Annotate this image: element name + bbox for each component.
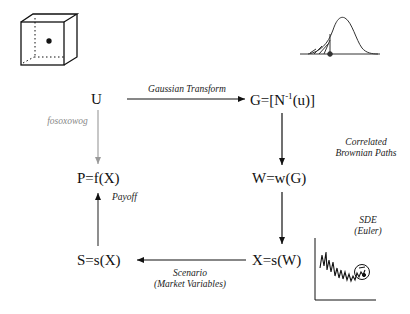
label-line: (Euler)	[338, 226, 398, 237]
node-w: W=w(G)	[252, 171, 306, 186]
label-line: (Market Variables)	[140, 279, 240, 290]
price-path-chart-icon	[315, 238, 376, 300]
label-line: SDE	[338, 215, 398, 226]
label-line: Brownian Paths	[326, 148, 406, 159]
label-gaussian-transform: Gaussian Transform	[137, 84, 237, 95]
label-payoff: Payoff	[112, 192, 152, 203]
label-correlated-brownian: Correlated Brownian Paths	[326, 137, 406, 160]
label-line: Scenario	[140, 268, 240, 279]
node-g-tail: (u)]	[293, 92, 316, 108]
normal-distribution-icon	[300, 17, 380, 56]
node-g-superscript: -1	[285, 91, 293, 101]
node-s: S=s(X)	[77, 253, 120, 268]
label-line: Correlated	[326, 137, 406, 148]
node-x: X=s(W)	[252, 253, 301, 268]
label-u-to-p: fosoxowog	[40, 116, 95, 127]
node-g-head: G=[N	[250, 92, 285, 108]
uniform-cube-icon	[21, 14, 77, 65]
node-g: G=[N-1(u)]	[250, 92, 315, 108]
label-sde-euler: SDE (Euler)	[338, 215, 398, 238]
node-u: U	[91, 92, 102, 107]
label-scenario: Scenario (Market Variables)	[140, 268, 240, 291]
node-p: P=f(X)	[77, 171, 120, 186]
